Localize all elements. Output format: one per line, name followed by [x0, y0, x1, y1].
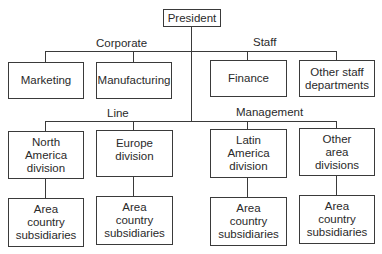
finance-box: Finance: [210, 60, 287, 97]
management-label: Management: [236, 106, 303, 119]
connector-latin-america: [247, 121, 248, 129]
manufacturing-label: Manufacturing: [98, 74, 171, 87]
connector-north-america: [45, 121, 46, 131]
marketing-box: Marketing: [8, 62, 84, 99]
latin-subsidiaries-label: Area country subsidiaries: [218, 202, 279, 241]
connector-other-area: [336, 121, 337, 128]
line-label: Line: [107, 107, 129, 120]
connector-other-subsidiary: [336, 175, 337, 195]
other-area-divisions-box: Other area divisions: [299, 128, 375, 176]
other-staff-departments-label: Other staff departments: [305, 66, 369, 92]
corporate-staff-bus-line: [45, 51, 337, 52]
latin-america-division-box: Latin America division: [210, 129, 287, 178]
north-america-division-box: North America division: [8, 131, 84, 179]
connector-latin-subsidiary: [247, 177, 248, 197]
connector-manufacturing: [133, 51, 134, 62]
europe-subsidiaries-box: Area country subsidiaries: [96, 196, 173, 245]
other-staff-departments-box: Other staff departments: [299, 60, 375, 97]
connector-marketing: [45, 51, 46, 62]
na-subsidiaries-label: Area country subsidiaries: [16, 203, 77, 242]
other-area-divisions-label: Other area divisions: [315, 133, 359, 172]
staff-label: Staff: [253, 36, 276, 49]
president-trunk-line: [191, 27, 192, 122]
europe-division-box: Europe division: [96, 130, 173, 177]
connector-finance: [247, 51, 248, 60]
president-box: President: [163, 9, 221, 27]
europe-division-label: Europe division: [115, 137, 153, 163]
marketing-label: Marketing: [21, 74, 72, 87]
connector-europe: [133, 121, 134, 130]
na-subsidiaries-box: Area country subsidiaries: [8, 198, 84, 247]
connector-na-subsidiary: [45, 178, 46, 198]
other-subsidiaries-box: Area country subsidiaries: [299, 195, 375, 244]
other-subsidiaries-label: Area country subsidiaries: [307, 200, 368, 239]
europe-subsidiaries-label: Area country subsidiaries: [104, 201, 165, 240]
line-management-bus-line: [45, 121, 337, 122]
connector-europe-subsidiary: [133, 176, 134, 196]
north-america-division-label: North America division: [25, 136, 67, 175]
corporate-label: Corporate: [96, 37, 147, 50]
connector-other-staff: [336, 51, 337, 60]
president-label: President: [168, 12, 217, 25]
manufacturing-box: Manufacturing: [96, 62, 172, 99]
finance-label: Finance: [228, 72, 269, 85]
latin-subsidiaries-box: Area country subsidiaries: [210, 197, 287, 246]
latin-america-division-label: Latin America division: [227, 134, 269, 173]
